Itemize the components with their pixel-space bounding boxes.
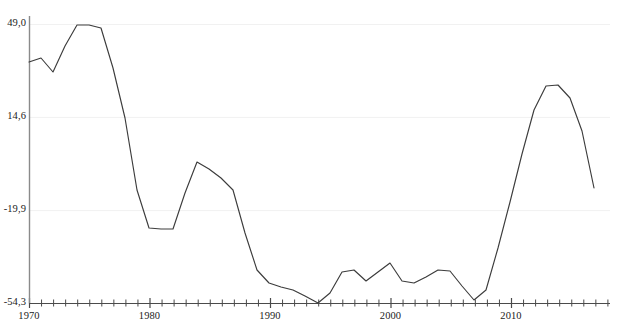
chart-plot-area [0,0,617,326]
x-tick-label: 1980 [125,310,175,321]
y-tick-label: -19,9 [4,203,26,214]
line-chart: 49,014,6-19,9-54,3 19701980199020002010 [0,0,617,326]
gridlines [29,25,610,211]
y-tick-label: 14,6 [7,110,26,121]
x-tick-label: 1970 [4,310,54,321]
x-tick-label: 1990 [245,310,295,321]
y-tick-label: 49,0 [7,17,26,28]
y-tick-label: -54,3 [4,296,26,307]
data-series-line [29,25,594,303]
x-tick-label: 2000 [366,310,416,321]
x-tick-label: 2010 [486,310,536,321]
